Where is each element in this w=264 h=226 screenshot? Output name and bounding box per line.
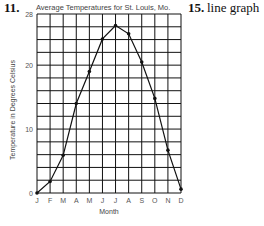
x-tick-label: F [48, 197, 52, 204]
x-tick-label: J [114, 197, 118, 204]
x-tick-label: A [74, 197, 79, 204]
data-point [166, 148, 170, 152]
line-chart: 0102028 JFMAMJJASOND Temperature in Degr… [0, 0, 264, 226]
data-point [48, 180, 52, 184]
x-tick-label: J [35, 197, 39, 204]
data-point [140, 60, 144, 64]
data-point [35, 191, 39, 195]
data-point [88, 70, 92, 74]
x-tick-label: S [139, 197, 144, 204]
data-point [114, 24, 118, 28]
data-point [127, 32, 131, 36]
data-point [101, 37, 105, 41]
x-tick-label: M [60, 197, 66, 204]
data-point [153, 97, 157, 101]
y-axis-label: Temperature in Degrees Celsius [9, 60, 17, 160]
data-points [35, 24, 183, 195]
data-point [179, 187, 183, 191]
y-tick-label: 0 [29, 190, 33, 197]
x-tick-label: N [165, 197, 170, 204]
y-tick-label: 10 [25, 126, 33, 133]
x-tick-label: J [101, 197, 105, 204]
chart-grid [37, 14, 181, 193]
x-tick-label: A [126, 197, 131, 204]
x-tick-label: O [152, 197, 158, 204]
x-tick-label: D [178, 197, 183, 204]
x-tick-label: M [86, 197, 92, 204]
x-axis-label: Month [99, 208, 119, 215]
y-axis-ticks: 0102028 [25, 11, 33, 197]
data-point [61, 153, 65, 157]
x-axis-ticks: JFMAMJJASOND [35, 197, 183, 204]
data-point [74, 102, 78, 106]
y-tick-label: 20 [25, 62, 33, 69]
y-tick-label: 28 [25, 11, 33, 18]
